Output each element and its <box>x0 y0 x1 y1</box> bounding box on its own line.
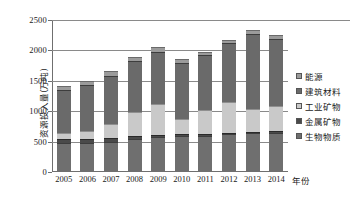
bar-segment-工业矿物[interactable] <box>104 124 118 138</box>
legend-item-label: 生物物质 <box>305 130 341 142</box>
bar-segment-建筑材料[interactable] <box>246 34 260 108</box>
bar-segment-工业矿物[interactable] <box>128 112 142 136</box>
bar-segment-生物物质[interactable] <box>269 133 283 172</box>
bar-2006[interactable] <box>80 20 94 172</box>
bar-segment-生物物质[interactable] <box>80 143 94 172</box>
x-axis-tick-label: 2005 <box>54 174 74 184</box>
bar-group <box>52 20 288 172</box>
bar-segment-工业矿物[interactable] <box>151 104 165 135</box>
y-axis-tick-label: 2500 <box>29 15 47 25</box>
bar-2009[interactable] <box>151 20 165 172</box>
bar-segment-生物物质[interactable] <box>198 136 212 172</box>
y-axis-tick-label: 1000 <box>29 106 47 116</box>
legend-swatch-icon <box>296 73 302 79</box>
bar-segment-工业矿物[interactable] <box>269 106 283 132</box>
bar-2012[interactable] <box>222 20 236 172</box>
bar-segment-建筑材料[interactable] <box>151 52 165 104</box>
legend-item-工业矿物[interactable]: 工业矿物 <box>296 100 341 112</box>
legend-item-建筑材料[interactable]: 建筑材料 <box>296 85 341 97</box>
legend-item-label: 金属矿物 <box>305 115 341 127</box>
bar-segment-建筑材料[interactable] <box>57 90 71 133</box>
legend-item-生物物质[interactable]: 生物物质 <box>296 130 341 142</box>
bar-segment-工业矿物[interactable] <box>57 133 71 140</box>
bar-2014[interactable] <box>269 20 283 172</box>
bar-segment-生物物质[interactable] <box>222 134 236 172</box>
legend-item-label: 建筑材料 <box>305 85 341 97</box>
bar-segment-生物物质[interactable] <box>104 142 118 172</box>
bar-segment-建筑材料[interactable] <box>80 85 94 131</box>
legend-swatch-icon <box>296 103 302 109</box>
x-axis-tick-label: 2008 <box>125 174 145 184</box>
x-axis-tick-label: 2014 <box>266 174 286 184</box>
bar-segment-生物物质[interactable] <box>151 137 165 172</box>
bar-2010[interactable] <box>175 20 189 172</box>
bar-segment-工业矿物[interactable] <box>80 131 94 139</box>
bar-segment-建筑材料[interactable] <box>104 76 118 124</box>
legend-item-label: 工业矿物 <box>305 100 341 112</box>
legend-swatch-icon <box>296 88 302 94</box>
bar-segment-工业矿物[interactable] <box>175 119 189 134</box>
bar-segment-工业矿物[interactable] <box>246 109 260 132</box>
legend-item-金属矿物[interactable]: 金属矿物 <box>296 115 341 127</box>
bar-segment-建筑材料[interactable] <box>175 63 189 120</box>
chart-root: 资源投入量(万吨) 05001000150020002500 200520062… <box>0 0 358 206</box>
bar-segment-生物物质[interactable] <box>128 139 142 172</box>
x-axis-tick-label: 2010 <box>172 174 192 184</box>
y-axis-tick <box>48 172 52 173</box>
legend-item-label: 能源 <box>305 70 323 82</box>
bar-segment-生物物质[interactable] <box>246 133 260 172</box>
bar-2008[interactable] <box>128 20 142 172</box>
y-axis-tick-label: 2000 <box>29 45 47 55</box>
bar-2013[interactable] <box>246 20 260 172</box>
bar-segment-生物物质[interactable] <box>175 136 189 172</box>
bar-segment-工业矿物[interactable] <box>222 102 236 133</box>
y-axis-tick-label: 0 <box>43 167 47 177</box>
bar-segment-生物物质[interactable] <box>57 143 71 172</box>
legend-swatch-icon <box>296 118 302 124</box>
bar-2011[interactable] <box>198 20 212 172</box>
bar-segment-建筑材料[interactable] <box>269 39 283 106</box>
x-axis-tick-label: 2007 <box>101 174 121 184</box>
x-axis-title: 年份 <box>292 174 310 186</box>
x-axis-tick-label: 2009 <box>148 174 168 184</box>
bar-segment-建筑材料[interactable] <box>128 61 142 111</box>
bar-segment-建筑材料[interactable] <box>222 43 236 102</box>
plot-area: 05001000150020002500 <box>52 20 288 172</box>
bar-segment-工业矿物[interactable] <box>198 110 212 134</box>
x-axis-tick-label: 2013 <box>243 174 263 184</box>
y-axis-tick-label: 500 <box>34 137 47 147</box>
y-axis-tick-label: 1500 <box>29 76 47 86</box>
legend: 能源建筑材料工业矿物金属矿物生物物质 <box>296 70 341 142</box>
legend-item-能源[interactable]: 能源 <box>296 70 341 82</box>
bar-2007[interactable] <box>104 20 118 172</box>
legend-swatch-icon <box>296 133 302 139</box>
x-axis-tick-label: 2012 <box>219 174 239 184</box>
bar-2005[interactable] <box>57 20 71 172</box>
bar-segment-建筑材料[interactable] <box>198 55 212 110</box>
x-axis-tick-label: 2006 <box>77 174 97 184</box>
x-axis-tick-label: 2011 <box>195 174 215 184</box>
x-axis-labels: 2005200620072008200920102011201220132014 <box>52 174 288 184</box>
